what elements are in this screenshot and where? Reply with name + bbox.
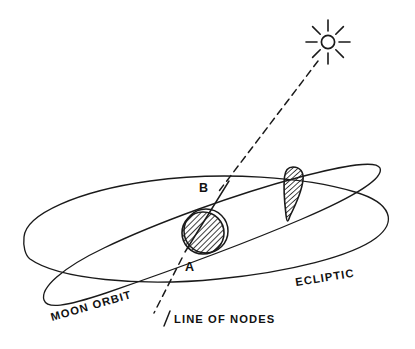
- node-a-label: A: [185, 260, 194, 274]
- line-of-nodes-label: LINE OF NODES: [174, 313, 275, 325]
- sun-icon: [306, 20, 350, 64]
- line-of-nodes-tick-mark: [164, 311, 170, 326]
- earth-shape: [182, 209, 228, 254]
- lunar-eclipse-diagram: MOON ORBIT ECLIPTIC LINE OF NODES A B: [0, 0, 415, 349]
- node-b-label: B: [199, 181, 208, 195]
- ecliptic-label: ECLIPTIC: [294, 267, 355, 288]
- umbra-cone-shape: [284, 167, 303, 221]
- sun-ray-dashed-line: [220, 61, 319, 191]
- diagram-canvas: MOON ORBIT ECLIPTIC LINE OF NODES A B: [0, 0, 415, 349]
